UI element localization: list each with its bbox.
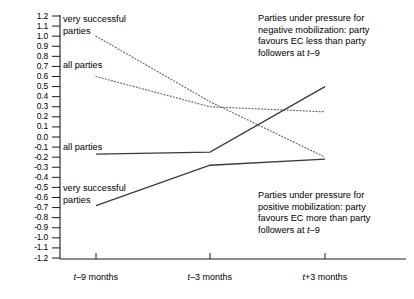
y-tick-label: 1.1 (22, 22, 48, 31)
y-tick-label: -1.0 (22, 233, 48, 242)
chart-series-group (96, 36, 325, 205)
y-tick-label: 0.6 (22, 72, 48, 81)
y-tick-label: 0.0 (22, 133, 48, 142)
series-label-top-very-successful: very successful parties (63, 14, 126, 37)
y-axis-ticks (52, 16, 60, 258)
chart-figure: 1.21.11.00.90.80.70.60.50.40.30.20.10.0-… (0, 0, 414, 299)
y-tick-label: 0.7 (22, 62, 48, 71)
annotation-negative-line2: negative mobilization: party (258, 25, 408, 37)
annotation-negative-mobilization: Parties under pressure for negative mobi… (258, 13, 408, 59)
x-tick-label: t–3 months (188, 272, 233, 282)
y-tick-label: -0.9 (22, 223, 48, 232)
annotation-positive-mobilization: Parties under pressure for positive mobi… (258, 190, 408, 236)
y-tick-label: 0.5 (22, 82, 48, 91)
annotation-positive-line3: favours EC more than party (258, 213, 408, 225)
y-tick-label: -0.8 (22, 213, 48, 222)
y-tick-label: -0.4 (22, 173, 48, 182)
y-tick-label: -0.6 (22, 193, 48, 202)
x-tick-label-italic: t (188, 272, 191, 282)
x-tick-label: t+3 months (303, 272, 348, 282)
y-tick-label: 0.9 (22, 42, 48, 51)
y-tick-label: -1.2 (22, 254, 48, 263)
annotation-negative-line1: Parties under pressure for (258, 13, 408, 25)
annotation-negative-line4-post: –9 (310, 48, 320, 58)
y-tick-label: -0.7 (22, 203, 48, 212)
y-tick-label: -1.1 (22, 243, 48, 252)
y-tick-label: 0.2 (22, 112, 48, 121)
annotation-positive-line4-pre: followers at (258, 225, 307, 235)
series-label-bottom-very-successful: very successful parties (63, 183, 126, 206)
y-tick-label: 0.1 (22, 122, 48, 131)
y-tick-label: 0.3 (22, 102, 48, 111)
y-tick-label: -0.5 (22, 183, 48, 192)
y-tick-label: 0.4 (22, 92, 48, 101)
y-tick-label: 0.8 (22, 52, 48, 61)
y-tick-label: -0.3 (22, 163, 48, 172)
x-axis-ticks (96, 253, 325, 259)
annotation-positive-line4: followers at t–9 (258, 225, 408, 237)
y-tick-label: -0.2 (22, 153, 48, 162)
annotation-positive-line4-post: –9 (310, 225, 320, 235)
annotation-positive-line2: positive mobilization: party (258, 202, 408, 214)
x-tick-label-italic: t (303, 272, 306, 282)
annotation-positive-line1: Parties under pressure for (258, 190, 408, 202)
y-tick-label: 1.2 (22, 12, 48, 21)
x-tick-label-italic: t (74, 272, 77, 282)
series-line (96, 87, 325, 155)
annotation-negative-line3: favours EC less than party (258, 36, 408, 48)
y-tick-label: -0.1 (22, 143, 48, 152)
annotation-negative-line4: followers at t–9 (258, 48, 408, 60)
y-tick-label: 1.0 (22, 32, 48, 41)
annotation-negative-line4-pre: followers at (258, 48, 307, 58)
series-label-top-all-parties: all parties (63, 60, 102, 72)
series-label-bottom-all-parties: all parties (63, 142, 102, 154)
x-tick-label: t–9 months (74, 272, 119, 282)
